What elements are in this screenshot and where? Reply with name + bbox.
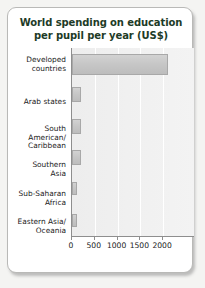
category-label-line: Oceania <box>36 226 66 235</box>
bar-5 <box>72 214 77 227</box>
x-axis-tick-label-500: 500 <box>87 241 102 250</box>
x-axis-tick-1500 <box>139 236 140 240</box>
plot-area <box>71 48 194 236</box>
category-label-line: Africa <box>45 198 66 207</box>
x-axis-tick-label-1000: 1000 <box>107 241 126 250</box>
bar-2 <box>72 119 81 134</box>
bar-4 <box>72 182 77 195</box>
plot-wrapper: Developed countries Arab states South Am… <box>8 48 194 262</box>
x-axis-tick-1000 <box>117 236 118 240</box>
x-axis-tick-2000 <box>162 236 163 240</box>
category-label-southern-asia: Southern Asia <box>8 161 66 178</box>
category-label-line: Caribbean <box>28 141 66 150</box>
chart-title-line-2: per pupil per year (US$) <box>14 30 188 43</box>
category-label-line: Arab states <box>24 97 66 106</box>
x-axis-tick-500 <box>94 236 95 240</box>
category-label-sub-saharan-africa: Sub-Saharan Africa <box>8 190 66 207</box>
x-axis-tick-label-0: 0 <box>69 241 74 250</box>
x-axis-tick-label-2000: 2000 <box>152 241 171 250</box>
chart-title-line-1: World spending on education <box>20 17 183 28</box>
category-label-south-american-caribbean: South American/ Caribbean <box>8 125 66 151</box>
x-axis-line <box>71 236 194 237</box>
category-label-line: Asia <box>51 169 67 178</box>
bar-3 <box>72 150 81 165</box>
bar-1 <box>72 87 81 102</box>
category-label-eastern-asia-oceania: Eastern Asia/ Oceania <box>8 218 66 235</box>
category-axis-labels: Developed countries Arab states South Am… <box>8 48 69 236</box>
gridline-2000 <box>163 48 164 236</box>
bar-0 <box>72 54 168 75</box>
x-axis-tick-label-1500: 1500 <box>130 241 149 250</box>
x-axis: 0500100015002000 <box>71 236 194 262</box>
x-axis-tick-0 <box>71 236 72 240</box>
gridline-1500 <box>140 48 141 236</box>
chart-title: World spending on education per pupil pe… <box>14 17 188 42</box>
chart-card: World spending on education per pupil pe… <box>7 7 193 273</box>
gridline-1000 <box>118 48 119 236</box>
category-label-line: countries <box>32 64 66 73</box>
category-label-arab-states: Arab states <box>8 98 66 107</box>
category-label-developed-countries: Developed countries <box>8 56 66 73</box>
gridline-500 <box>95 48 96 236</box>
